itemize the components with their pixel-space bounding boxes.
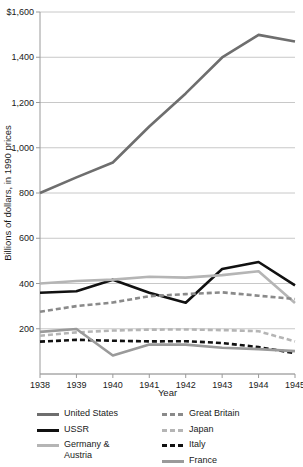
x-tick-label: 1941	[139, 380, 159, 390]
x-tick-label: 1939	[66, 380, 86, 390]
gridlines	[40, 12, 295, 374]
x-tick-label: 1938	[30, 380, 50, 390]
y-tick-label: 800	[19, 188, 34, 198]
y-tick-label: 200	[19, 324, 34, 334]
y-tick-label: 400	[19, 279, 34, 289]
y-axis-title: Billions of dollars, in 1990 prices	[2, 125, 13, 261]
x-tick-label: 1944	[249, 380, 269, 390]
line-swatch-japan	[162, 425, 184, 436]
line-chart-svg: 2004006008001,0001,2001,400$1,600 193819…	[0, 0, 303, 400]
legend-label: Japan	[189, 424, 214, 435]
legend-label: Great Britain	[189, 408, 240, 419]
legend-item[interactable]: France	[162, 455, 240, 467]
legend-item[interactable]: Italy	[162, 439, 240, 452]
series-line-italy	[40, 340, 295, 353]
y-tick-label: 1,200	[11, 98, 34, 108]
y-tick-label: 600	[19, 233, 34, 243]
legend-item[interactable]: USSR	[37, 424, 118, 437]
y-tick-label: 1,400	[11, 52, 34, 62]
x-tick-label: 1942	[176, 380, 196, 390]
chart-legend: United StatesUSSRGermany & Austria Great…	[0, 408, 303, 462]
data-series-group	[40, 35, 295, 356]
x-tick-label: 1945	[285, 380, 303, 390]
line-swatch-italy	[162, 440, 184, 451]
x-tick-label: 1943	[212, 380, 232, 390]
legend-label: Italy	[189, 439, 206, 450]
line-swatch-ussr	[37, 425, 59, 436]
legend-item[interactable]: United States	[37, 408, 118, 421]
line-swatch-united-states	[37, 409, 59, 420]
legend-item[interactable]: Japan	[162, 424, 240, 437]
legend-label: Germany & Austria	[64, 439, 110, 461]
legend-item[interactable]: Germany & Austria	[37, 439, 118, 463]
legend-column-right: Great BritainJapanItalyFrance	[162, 408, 240, 467]
plot-area: 2004006008001,0001,2001,400$1,600 193819…	[0, 0, 303, 400]
axis-titles: YearBillions of dollars, in 1990 prices	[2, 125, 177, 398]
line-swatch-great-britain	[162, 409, 184, 420]
legend-label: France	[189, 455, 217, 466]
line-swatch-germany-austria	[37, 440, 59, 451]
y-tick-label: 1,000	[11, 143, 34, 153]
legend-column-left: United StatesUSSRGermany & Austria	[37, 408, 118, 466]
x-axis-title: Year	[158, 387, 177, 398]
legend-label: United States	[64, 408, 118, 419]
legend-label: USSR	[64, 424, 89, 435]
line-swatch-france	[162, 456, 184, 467]
series-line-united-states	[40, 35, 295, 193]
series-line-france	[40, 329, 295, 355]
x-tick-label: 1940	[103, 380, 123, 390]
legend-item[interactable]: Great Britain	[162, 408, 240, 421]
y-tick-label: $1,600	[6, 7, 34, 17]
series-line-great-britain	[40, 292, 295, 311]
